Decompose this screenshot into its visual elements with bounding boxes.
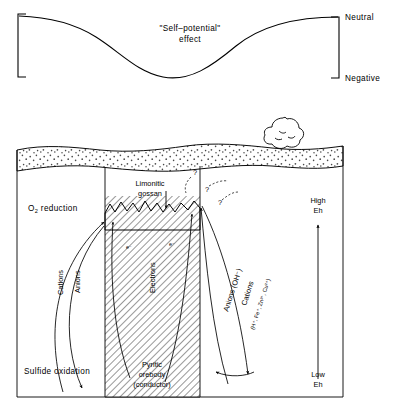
sp-scale-negative-label: Negative xyxy=(345,74,380,83)
electron-marker-left: e⁻ xyxy=(126,244,132,250)
query-mark-3: ? xyxy=(218,198,222,207)
query-mark-1: ? xyxy=(193,168,197,177)
overburden-layer xyxy=(17,144,343,171)
sp-right-bracket xyxy=(331,17,339,78)
eh-low-label-line1: Low xyxy=(311,370,325,379)
sp-scale-neutral-label: Neutral xyxy=(345,13,374,22)
limonitic-gossan-label-line2: gossan xyxy=(138,189,162,198)
eh-scale: High Eh Low Eh xyxy=(310,196,325,389)
limonitic-gossan-label-line1: Limonitic xyxy=(135,179,164,188)
left-anions-arc xyxy=(69,226,104,388)
orebody-label-line3: (conductor) xyxy=(133,380,170,389)
figure-canvas: "Self–potential" effect Neutral Negative xyxy=(0,0,397,408)
orebody-label-line2: orebody xyxy=(139,370,166,379)
eh-high-label-line2: Eh xyxy=(313,206,322,215)
electrons-label: Electrons xyxy=(148,262,157,293)
query-connector-1 xyxy=(185,177,191,193)
o2-reduction-label: O2 reduction xyxy=(28,204,78,214)
cross-section-block: ? ? ? O2 reduction Cations Anions Sulfid… xyxy=(17,144,343,397)
orebody-label-line1: Pyritic xyxy=(142,360,162,369)
left-cations-label: Cations xyxy=(56,270,65,295)
right-anions-label: Anions (OH⁻) xyxy=(221,267,243,312)
right-cations-label: Cations xyxy=(239,280,255,307)
query-connector-2 xyxy=(209,181,228,186)
left-anions-label: Anions xyxy=(73,270,82,293)
eh-high-label-line1: High xyxy=(310,196,325,205)
eh-low-label-line2: Eh xyxy=(313,380,322,389)
self-potential-label-line2: effect xyxy=(179,35,201,44)
self-potential-panel: "Self–potential" effect Neutral Negative xyxy=(18,13,380,83)
self-potential-geoelectrochemistry-figure: "Self–potential" effect Neutral Negative xyxy=(0,0,397,408)
query-mark-2: ? xyxy=(205,185,209,194)
o2-reduction-text: O xyxy=(28,204,35,213)
sp-left-bracket xyxy=(18,14,26,77)
sulfide-oxidation-label: Sulfide oxidation xyxy=(24,367,90,376)
right-cations-arc xyxy=(202,206,248,374)
self-potential-label-line1: "Self–potential" xyxy=(159,24,220,33)
right-return-arc xyxy=(216,372,254,376)
electron-marker-right: e⁻ xyxy=(169,241,175,247)
query-connector-3 xyxy=(222,192,238,200)
